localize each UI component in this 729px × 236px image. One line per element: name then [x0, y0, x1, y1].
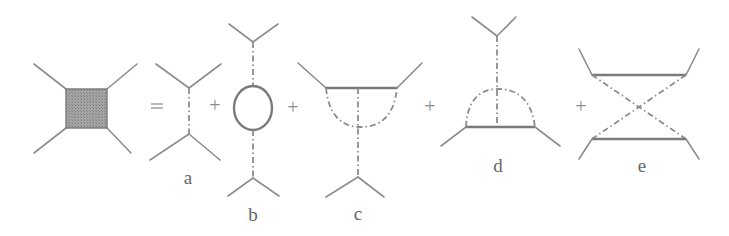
plus-sign: +	[209, 94, 220, 116]
plus-sign: +	[287, 96, 298, 118]
label-a: a	[184, 167, 193, 188]
lhs-blob-vertex	[34, 64, 137, 153]
feynman-diagram-figure: a + b + c + d +	[0, 0, 729, 236]
label-d: d	[493, 155, 503, 176]
label-e: e	[638, 155, 646, 176]
diagram-d: d	[441, 17, 560, 176]
equals-sign	[151, 104, 163, 108]
diagram-a: a	[150, 64, 221, 188]
plus-sign: +	[424, 95, 435, 117]
plus-sign: +	[575, 95, 586, 117]
label-b: b	[248, 204, 258, 225]
label-c: c	[354, 203, 362, 224]
diagram-c: c	[298, 63, 422, 224]
diagram-e: e	[579, 49, 699, 176]
diagram-b: b	[228, 24, 279, 225]
